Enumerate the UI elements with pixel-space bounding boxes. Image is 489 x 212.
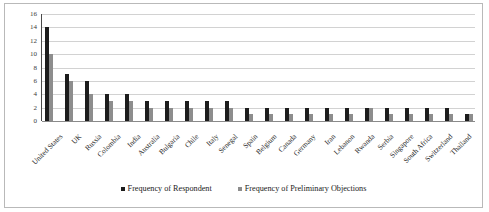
bar-group [305,14,313,121]
x-axis-label: United States [30,132,64,166]
bar [469,114,473,121]
x-axis-label: Rwanda [353,132,376,155]
bar-group [105,14,113,121]
bar [129,101,133,121]
bar [149,108,153,121]
legend-item-respondent: Frequency of Respondent [121,184,212,193]
bar [229,108,233,121]
x-axis-label: Bulgaria [157,132,181,156]
y-axis-tick: 12 [30,37,37,44]
bar [89,94,93,121]
y-axis-tick: 16 [30,11,37,18]
y-axis-tick: 4 [34,91,38,98]
bar [369,108,373,121]
bar [389,114,393,121]
bar-group [185,14,193,121]
bar [189,108,193,121]
bar [169,108,173,121]
x-axis-label: Chile [183,132,201,150]
gridline [42,121,475,122]
plot-area-wrapper: 0246810121416 [23,14,475,132]
bar-group [145,14,153,121]
legend-swatch-preliminary-objections [238,187,242,191]
bar-group [365,14,373,121]
bar-group [345,14,353,121]
bar [329,114,333,121]
chart-frame: 0246810121416 United StatesUKRussiaColom… [4,3,483,208]
bar [49,54,53,121]
legend-item-preliminary-objections: Frequency of Preliminary Objections [238,184,367,193]
y-axis-tick: 6 [34,77,38,84]
x-axis-label: UK [70,132,84,146]
bar-group [265,14,273,121]
bar [309,114,313,121]
y-axis-tick: 10 [30,51,37,58]
bar-group [245,14,253,121]
legend-swatch-respondent [121,187,125,191]
bar-group [85,14,93,121]
legend-label-respondent: Frequency of Respondent [128,184,212,193]
bar-group [225,14,233,121]
x-axis-label: Iran [322,132,337,147]
y-axis-tick: 8 [34,64,38,71]
bar [449,114,453,121]
bar-group [285,14,293,121]
bar-group [385,14,393,121]
bar [409,114,413,121]
bar [69,81,73,121]
x-axis-label: Senegal [217,132,240,155]
bar-group [45,14,53,121]
bar [249,114,253,121]
bar-groups [42,14,475,121]
bar-group [445,14,453,121]
bar [209,108,213,121]
plot-area [41,14,475,121]
bar [269,114,273,121]
x-axis-labels: United StatesUKRussiaColombiaIndiaAustra… [41,132,475,184]
bar [429,114,433,121]
y-axis-tick: 2 [34,104,38,111]
y-axis: 0246810121416 [23,14,39,121]
y-axis-tick: 0 [34,118,38,125]
bar [109,101,113,121]
bar-group [165,14,173,121]
bar-group [125,14,133,121]
bar-group [405,14,413,121]
bar-group [325,14,333,121]
bar-group [65,14,73,121]
bar-group [465,14,473,121]
bar [289,114,293,121]
chart-legend: Frequency of Respondent Frequency of Pre… [5,184,482,193]
legend-label-preliminary-objections: Frequency of Preliminary Objections [245,184,367,193]
x-axis-label: Belgium [254,132,278,156]
bar-group [205,14,213,121]
bar-group [425,14,433,121]
bar [349,114,353,121]
y-axis-tick: 14 [30,24,37,31]
